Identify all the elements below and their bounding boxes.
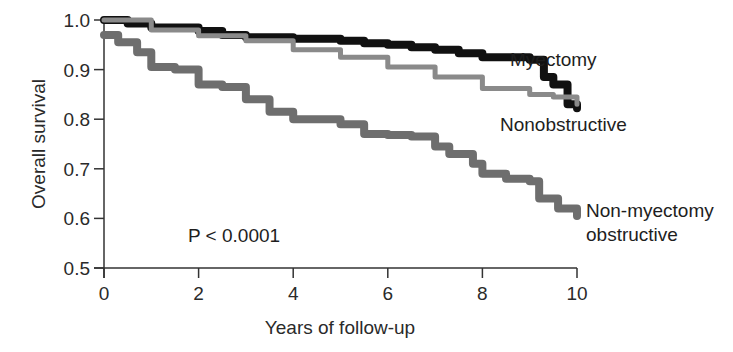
x-axis-title: Years of follow-up (265, 317, 415, 338)
x-tick-label: 8 (477, 283, 488, 304)
y-tick-label: 0.9 (64, 60, 90, 81)
x-tick-label: 2 (193, 283, 204, 304)
y-tick-label: 1.0 (64, 10, 90, 31)
label-nonobstructive: Nonobstructive (500, 114, 627, 135)
y-tick-label: 0.7 (64, 159, 90, 180)
y-tick-label: 0.6 (64, 208, 90, 229)
survival-chart: 0.50.60.70.80.91.00246810 Overall surviv… (0, 0, 733, 352)
x-tick-label: 4 (288, 283, 299, 304)
x-tick-label: 6 (383, 283, 394, 304)
label-nonmyectomy-line1: Non-myectomy (586, 200, 714, 221)
x-tick-label: 10 (566, 283, 587, 304)
label-myectomy: Myectomy (510, 49, 597, 70)
x-tick-label: 0 (99, 283, 110, 304)
y-tick-label: 0.5 (64, 258, 90, 279)
series-line-nonobstructive (104, 20, 577, 104)
p-value-annotation: P < 0.0001 (188, 225, 280, 246)
label-nonmyectomy-line2: obstructive (586, 224, 678, 245)
y-axis-title: Overall survival (28, 79, 49, 209)
y-tick-label: 0.8 (64, 109, 90, 130)
